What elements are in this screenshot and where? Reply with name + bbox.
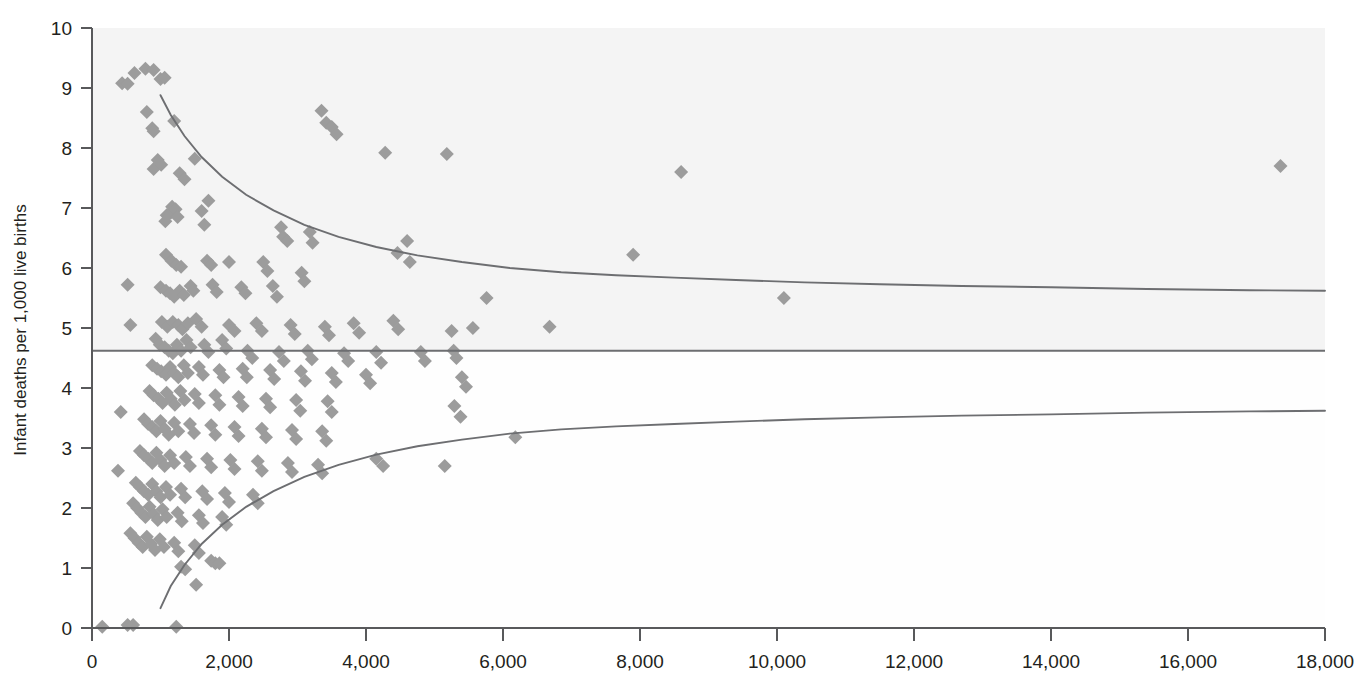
y-tick-label-2: 2 bbox=[61, 498, 72, 519]
y-axis-title: Infant deaths per 1,000 live births bbox=[11, 204, 30, 455]
y-tick-label-7: 7 bbox=[61, 198, 72, 219]
x-tick-label-6000: 6,000 bbox=[479, 651, 527, 672]
y-tick-label-8: 8 bbox=[61, 138, 72, 159]
y-tick-label-6: 6 bbox=[61, 258, 72, 279]
y-tick-label-5: 5 bbox=[61, 318, 72, 339]
x-tick-label-2000: 2,000 bbox=[205, 651, 253, 672]
x-tick-label-12000: 12,000 bbox=[885, 651, 943, 672]
y-tick-label-0: 0 bbox=[61, 618, 72, 639]
chart-canvas: 012345678910 02,0004,0006,0008,00010,000… bbox=[0, 0, 1360, 675]
x-tick-label-0: 0 bbox=[87, 651, 98, 672]
x-tick-label-18000: 18,000 bbox=[1296, 651, 1354, 672]
x-tick-label-16000: 16,000 bbox=[1159, 651, 1217, 672]
x-axis-ticks: 02,0004,0006,0008,00010,00012,00014,0001… bbox=[87, 628, 1354, 672]
x-tick-label-8000: 8,000 bbox=[616, 651, 664, 672]
x-tick-label-4000: 4,000 bbox=[342, 651, 390, 672]
y-tick-label-3: 3 bbox=[61, 438, 72, 459]
y-tick-label-1: 1 bbox=[61, 558, 72, 579]
y-tick-label-4: 4 bbox=[61, 378, 72, 399]
y-tick-label-10: 10 bbox=[51, 18, 72, 39]
x-tick-label-10000: 10,000 bbox=[748, 651, 806, 672]
y-axis-ticks: 012345678910 bbox=[51, 18, 92, 639]
x-tick-label-14000: 14,000 bbox=[1022, 651, 1080, 672]
plot-background bbox=[92, 28, 1325, 628]
funnel-plot-chart: 012345678910 02,0004,0006,0008,00010,000… bbox=[0, 0, 1360, 675]
y-tick-label-9: 9 bbox=[61, 78, 72, 99]
